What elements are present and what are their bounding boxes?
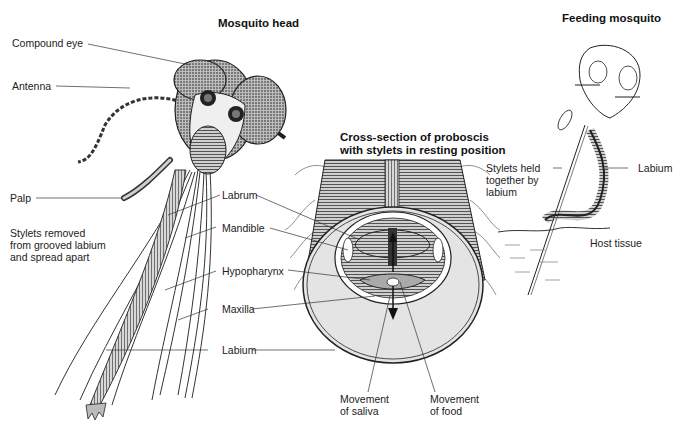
label-movement-food-line1: Movement (430, 393, 479, 405)
label-stylets-removed-line2: from grooved labium (10, 239, 106, 251)
label-antenna: Antenna (12, 80, 51, 92)
label-movement-saliva-line2: of saliva (340, 405, 379, 417)
title-cross-section-line1: Cross-section of proboscis (340, 131, 489, 144)
label-labrum: Labrum (222, 189, 258, 201)
label-compound-eye: Compound eye (12, 37, 83, 49)
label-stylets-removed-line3: and spread apart (10, 251, 89, 263)
label-hypopharynx: Hypopharynx (222, 265, 284, 277)
title-mosquito-head: Mosquito head (218, 17, 299, 30)
label-labium-center: Labium (222, 344, 256, 356)
proboscis-cross-section-drawing (285, 160, 500, 363)
label-maxilla: Maxilla (222, 303, 255, 315)
title-cross-section-line2: with stylets in resting position (340, 144, 506, 157)
label-movement-saliva-line1: Movement (340, 393, 389, 405)
title-feeding-mosquito: Feeding mosquito (562, 12, 661, 25)
label-host-tissue: Host tissue (590, 237, 642, 249)
label-movement-food-line2: of food (430, 405, 462, 417)
label-stylets-held-line2: together by (486, 174, 539, 186)
label-labium-feeding: Labium (638, 162, 672, 174)
label-stylets-held-line3: labium (486, 186, 517, 198)
diagram-artwork (0, 0, 689, 426)
label-stylets-held-line1: Stylets held (486, 162, 540, 174)
label-mandible: Mandible (222, 222, 265, 234)
label-stylets-removed-line1: Stylets removed (10, 227, 85, 239)
label-palp: Palp (10, 192, 31, 204)
